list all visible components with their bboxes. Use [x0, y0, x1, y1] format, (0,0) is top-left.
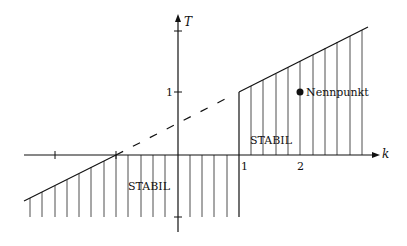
stability-diagram: Nennpunkt STABIL STABIL k T 1 2 1	[0, 0, 407, 246]
x-axis-label: k	[382, 147, 389, 161]
nennpunkt-label: Nennpunkt	[306, 86, 369, 99]
x-axis-arrow-icon	[372, 152, 380, 158]
x-tick-label-2: 2	[297, 160, 304, 173]
stabil-label-upper: STABIL	[250, 134, 293, 147]
y-axis-arrow-icon	[175, 14, 181, 22]
axes	[24, 20, 374, 232]
nennpunkt-marker-icon	[297, 89, 304, 96]
y-tick-label-1: 1	[166, 86, 173, 99]
x-tick-label-1: 1	[241, 160, 248, 173]
boundary-lines	[24, 27, 368, 217]
y-axis-label: T	[184, 15, 193, 29]
stabil-label-lower: STABIL	[128, 180, 171, 193]
